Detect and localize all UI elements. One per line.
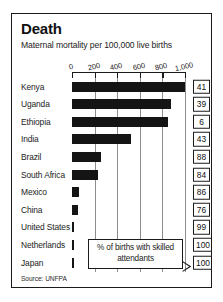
category-label: United States — [21, 222, 70, 232]
bar-row: China76 — [12, 201, 212, 218]
source-note: Source: UNFPA — [21, 275, 67, 282]
bar-row: Brazil88 — [12, 148, 212, 165]
attendant-percent-box: 99 — [193, 220, 210, 235]
bar-row: South Africa84 — [12, 166, 212, 183]
x-tick-label: 400 — [109, 61, 123, 72]
attendant-percent-box: 6 — [193, 114, 210, 129]
chart-figure: Death Maternal mortality per 100,000 liv… — [11, 13, 212, 288]
x-tick-label: 200 — [87, 61, 101, 72]
attendant-percent-box: 43 — [193, 132, 210, 147]
attendant-percent-box: 100 — [193, 255, 212, 270]
bar — [72, 82, 185, 92]
bar-row: India43 — [12, 131, 212, 148]
category-label: Mexico — [21, 187, 47, 197]
bar — [72, 205, 78, 215]
category-label: China — [21, 205, 42, 215]
legend-pointer-icon — [182, 261, 191, 272]
bar — [72, 222, 74, 232]
x-tick-label: 600 — [132, 61, 146, 72]
x-axis-line — [72, 72, 185, 73]
bar-row: Kenya41 — [12, 78, 212, 95]
attendant-percent-box: 76 — [193, 202, 210, 217]
attendant-percent-box: 86 — [193, 185, 210, 200]
category-label: Ethiopia — [21, 117, 50, 127]
attendant-percent-box: 88 — [193, 150, 210, 165]
bar — [72, 99, 171, 109]
x-tick-label: 0 — [68, 62, 74, 72]
category-label: Brazil — [21, 152, 41, 162]
legend-callout: % of births with skilled attendants — [88, 239, 183, 269]
bar — [72, 134, 131, 144]
category-label: South Africa — [21, 170, 65, 180]
category-label: Netherlands — [21, 240, 65, 250]
attendant-percent-box: 100 — [193, 238, 212, 253]
bar — [72, 152, 101, 162]
bar — [72, 170, 98, 180]
attendant-percent-box: 84 — [193, 167, 210, 182]
category-label: India — [21, 134, 39, 144]
bar-row: Mexico86 — [12, 184, 212, 201]
attendant-percent-box: 39 — [193, 97, 210, 112]
bar — [72, 240, 74, 250]
category-label: Uganda — [21, 99, 50, 109]
bar-row: United States99 — [12, 219, 212, 236]
category-label: Japan — [21, 258, 43, 268]
x-axis-tick-labels: 02004006008001,000 — [12, 57, 212, 71]
category-label: Kenya — [21, 82, 44, 92]
x-tick-label: 800 — [154, 61, 168, 72]
bar — [72, 117, 168, 127]
attendant-percent-box: 41 — [193, 79, 210, 94]
bar — [72, 187, 79, 197]
bar-row: Ethiopia6 — [12, 113, 212, 130]
bar-row: Uganda39 — [12, 96, 212, 113]
bar — [72, 258, 74, 268]
